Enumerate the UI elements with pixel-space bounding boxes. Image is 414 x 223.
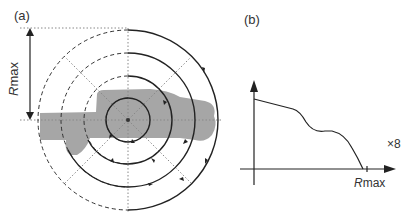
multiplier-label: ×8 <box>387 137 401 151</box>
rmax-axis-label: Rmax <box>354 176 385 190</box>
panel-b-axes <box>240 80 396 185</box>
arrow-icon <box>179 177 184 181</box>
arrow-icon <box>151 158 155 163</box>
range-profile-curve <box>254 99 363 169</box>
panel-a-label: (a) <box>14 8 30 23</box>
rmax-dimension-arrow <box>26 28 34 120</box>
arrow-icon <box>183 139 188 144</box>
rmax-rest: max <box>6 62 21 87</box>
rmax-vertical-label: Rmax <box>6 62 21 96</box>
center-point <box>126 118 130 122</box>
diagram-canvas <box>0 0 414 223</box>
rmax-rest: max <box>363 176 386 190</box>
arrow-icon <box>110 158 114 163</box>
rmax-r: R <box>6 87 21 96</box>
rmax-r: R <box>354 176 363 190</box>
panel-b-label: (b) <box>244 12 260 27</box>
